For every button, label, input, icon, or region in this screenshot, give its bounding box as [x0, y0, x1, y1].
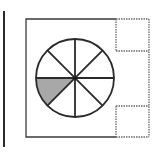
- sector-net-diagram: [0, 0, 157, 158]
- shaded-sector: [36, 78, 75, 106]
- top-dashed-flap: [116, 19, 149, 51]
- bottom-dashed-flap: [116, 106, 149, 137]
- circle-center-dot: [73, 76, 77, 80]
